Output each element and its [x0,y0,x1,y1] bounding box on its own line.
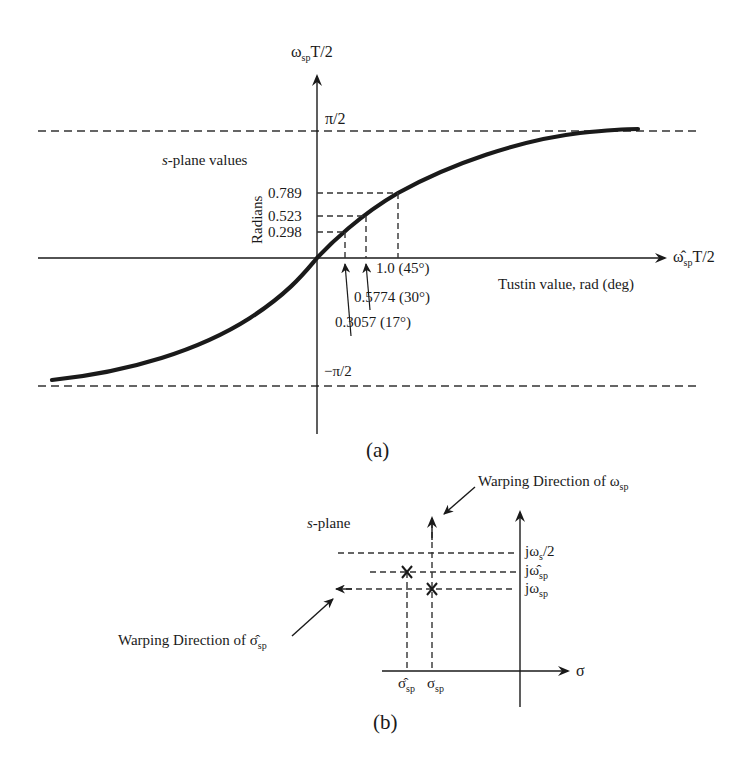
x-annotation-0.5774: 0.5774 (30°) [354,290,430,305]
x-annotation-1.0: 1.0 (45°) [376,261,430,276]
diagram-canvas [0,0,753,774]
sigma-hat-label: σ̂sp [398,676,415,694]
caption-b: (b) [373,712,398,733]
warp-omega-sub: sp [620,481,629,492]
sigma-sp-label: σsp [427,676,444,694]
jwhat-main: jω̂ [525,562,539,578]
s-plane-text: -plane [313,515,350,531]
sigma-hat-main: σ̂ [398,675,406,691]
y-tick-0.789: 0.789 [268,186,302,201]
s-plane-values-text: -plane values [168,152,248,168]
x-annotation-0.3057: 0.3057 (17°) [335,315,411,330]
tustin-label: Tustin value, rad (deg) [498,277,634,292]
sigma-main: σ [427,675,435,691]
pole-markers [402,566,437,595]
sigma-hat-sub: sp [406,683,415,694]
warp-sigma-sub: sp [258,640,267,651]
y-axis-label-main: ω [291,43,302,60]
s-plane-label: s-plane [307,516,350,531]
j-omega-hat-label: jω̂sp [525,563,548,581]
warp-sigma-label: Warping Direction of σ̂sp [118,633,267,651]
warp-omega-text: Warping Direction of ω [478,473,620,489]
x-axis-label-tail: T/2 [692,248,714,265]
x-axis-label-main: ω̂ [673,248,684,265]
warp-sigma-text: Warping Direction of σ̂ [118,632,258,648]
lower-asymptote-label: −π/2 [324,364,352,379]
jws-main: jω [525,543,539,559]
omega-warp-leader [444,487,475,514]
jwhat-sub: sp [539,570,548,581]
sigma-axis-label: σ [576,663,585,679]
warp-omega-label: Warping Direction of ωsp [478,474,628,492]
radians-label: Radians [250,196,265,244]
j-omega-s-half-label: jωs/2 [525,544,555,562]
x-axis-label: ω̂spT/2 [673,249,715,268]
sigma-warp-leader [292,599,333,636]
s-plane-values-label: s-plane values [162,153,247,168]
j-omega-label: jωsp [525,581,548,599]
y-tick-0.523: 0.523 [268,209,302,224]
upper-asymptote-label: π/2 [325,111,346,127]
caption-a: (a) [366,440,389,461]
jw-sub: sp [539,588,548,599]
figure-a [38,76,700,434]
sigma-sub: sp [435,683,444,694]
jw-main: jω [525,580,539,596]
y-axis-label: ωspT/2 [291,44,333,63]
jws-tail: /2 [543,543,555,559]
y-axis-label-tail: T/2 [310,43,332,60]
y-tick-0.298: 0.298 [268,225,302,240]
